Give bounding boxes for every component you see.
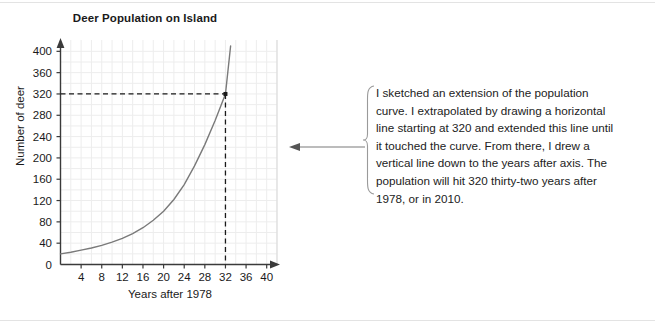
y-tick-label: 280 xyxy=(18,109,52,121)
deer-population-chart: Deer Population on Island Number of deer… xyxy=(0,0,300,320)
page-bottom-rule xyxy=(0,320,655,321)
x-tick-label: 40 xyxy=(255,271,279,283)
y-axis-arrowhead xyxy=(57,38,65,48)
callout-bracket xyxy=(362,84,376,196)
callout-pointer-arrow xyxy=(287,140,365,154)
y-tick-label: 200 xyxy=(18,152,52,164)
y-tick-label: 400 xyxy=(18,45,52,57)
y-tick-label: 320 xyxy=(18,88,52,100)
intersection-point xyxy=(223,92,227,96)
callout-text: I sketched an extension of the populatio… xyxy=(376,84,620,207)
grid-lines xyxy=(61,40,278,265)
y-tick-label: 40 xyxy=(18,237,52,249)
x-axis-arrowhead xyxy=(270,261,280,269)
y-tick-label: 360 xyxy=(18,67,52,79)
y-tick-label: 0 xyxy=(18,259,52,271)
y-tick-label: 80 xyxy=(18,216,52,228)
y-tick-label: 120 xyxy=(18,195,52,207)
y-tick-label: 240 xyxy=(18,131,52,143)
y-tick-label: 160 xyxy=(18,173,52,185)
explanation-callout: I sketched an extension of the populatio… xyxy=(362,84,620,196)
